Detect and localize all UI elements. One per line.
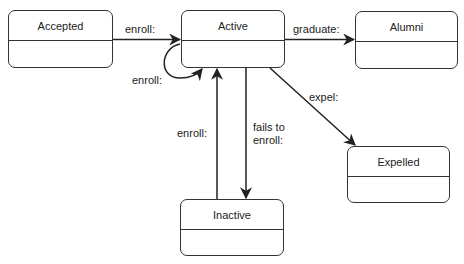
label-accepted-active: enroll: bbox=[125, 23, 155, 36]
state-accepted[interactable]: Accepted bbox=[8, 10, 113, 68]
label-active-inactive-2: enroll: bbox=[253, 134, 283, 147]
label-active-inactive-1: fails to bbox=[253, 121, 285, 134]
state-alumni-label: Alumni bbox=[356, 12, 457, 42]
label-active-self: enroll: bbox=[132, 74, 162, 87]
state-active-label: Active bbox=[182, 11, 284, 41]
state-accepted-label: Accepted bbox=[9, 11, 112, 41]
state-inactive-label: Inactive bbox=[181, 200, 283, 230]
state-alumni[interactable]: Alumni bbox=[355, 11, 458, 69]
label-active-alumni: graduate: bbox=[293, 23, 339, 36]
label-active-expelled: expel: bbox=[309, 91, 338, 104]
state-inactive[interactable]: Inactive bbox=[180, 199, 284, 256]
state-expelled-label: Expelled bbox=[348, 147, 449, 177]
label-inactive-active: enroll: bbox=[177, 127, 207, 140]
state-expelled[interactable]: Expelled bbox=[347, 146, 450, 203]
state-active[interactable]: Active bbox=[181, 10, 285, 68]
